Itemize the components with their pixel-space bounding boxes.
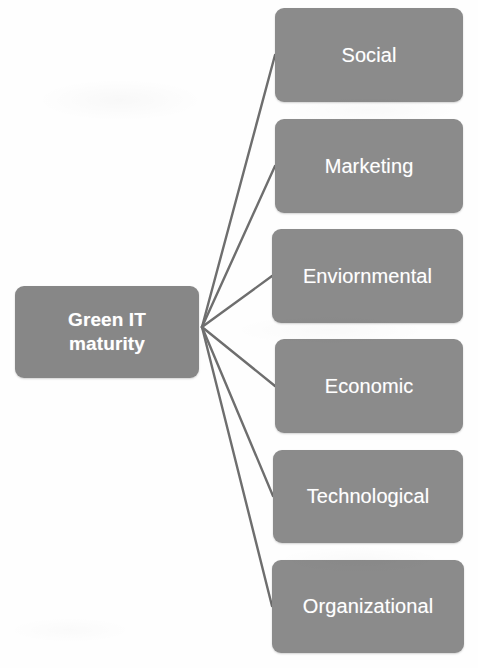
node-label-economic: Economic — [325, 375, 414, 398]
node-label-line-2: maturity — [69, 333, 145, 354]
node-label-organizational: Organizational — [303, 595, 433, 618]
node-marketing[interactable]: Marketing — [275, 119, 463, 213]
node-label-line-1: Green IT — [68, 309, 146, 330]
node-social[interactable]: Social — [275, 8, 463, 102]
node-label-environmental: Enviornmental — [303, 265, 432, 288]
node-organizational[interactable]: Organizational — [272, 560, 464, 653]
node-environmental[interactable]: Enviornmental — [272, 229, 463, 323]
node-label-social: Social — [341, 44, 396, 67]
node-green-it-maturity[interactable]: Green IT maturity — [15, 286, 199, 378]
node-economic[interactable]: Economic — [275, 339, 463, 433]
node-technological[interactable]: Technological — [273, 450, 463, 543]
node-label-technological: Technological — [307, 485, 430, 508]
diagram-canvas: Green IT maturity Social Marketing Envio… — [0, 0, 478, 668]
node-label-green-it-maturity: Green IT maturity — [68, 308, 146, 356]
connector-economic — [202, 327, 275, 386]
node-label-marketing: Marketing — [325, 155, 414, 178]
